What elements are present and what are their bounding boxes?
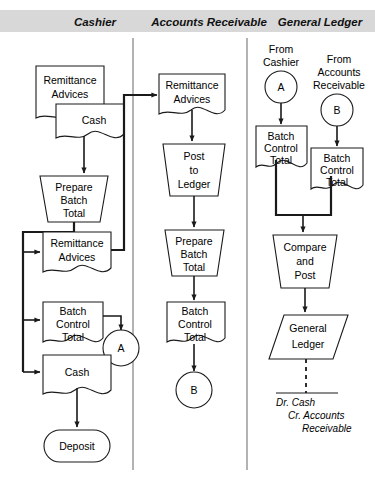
gl-compare-line3: Post — [294, 269, 315, 281]
ar-pbt-line3: Total — [183, 261, 205, 273]
gl-from-ar-line3: Receivable — [313, 79, 365, 91]
gl-general-ledger-line1: General — [289, 322, 326, 334]
gl-journal-entry-line2: Cr. Accounts — [288, 410, 345, 421]
gl-connector-a-label: A — [277, 81, 284, 93]
gl-bct-left-line2: Control — [264, 142, 298, 154]
gl-from-cashier-line1: From — [269, 43, 294, 55]
ar-post-line1: Post — [183, 150, 204, 162]
flowchart-page: Cashier Accounts Receivable General Ledg… — [0, 0, 375, 477]
cashier-pbt-line3: Total — [63, 207, 85, 219]
cashier-deposit-label: Deposit — [59, 440, 95, 452]
gl-journal-entry-line1: Dr. Cash — [276, 397, 316, 408]
cashier-ra2-line1: Remittance — [50, 237, 103, 249]
gl-compare-line1: Compare — [283, 241, 326, 253]
gl-from-ar-line1: From — [327, 53, 352, 65]
cashier-connector-a-label: A — [117, 342, 124, 354]
cashier-pbt-line1: Prepare — [55, 181, 93, 193]
gl-journal-entry-line3: Receivable — [302, 423, 352, 434]
gl-bct-right-line1: Batch — [324, 152, 351, 164]
cashier-ra2-line2: Advices — [59, 251, 96, 263]
gl-bct-left-line1: Batch — [268, 130, 295, 142]
cashier-bct-line2: Control — [56, 318, 90, 330]
ar-bct-line1: Batch — [182, 305, 209, 317]
ar-post-line3: Ledger — [178, 178, 211, 190]
ar-bct-line3: Total — [184, 331, 206, 343]
ar-ra-line1: Remittance — [165, 79, 218, 91]
gl-from-ar-line2: Accounts — [317, 66, 360, 78]
cashier-pbt-line2: Batch — [61, 194, 88, 206]
route-bct-to-connector-a — [103, 316, 121, 330]
ar-bct-line2: Control — [178, 318, 212, 330]
cashier-ra1-line1: Remittance — [43, 74, 96, 86]
cashier-cash-overlay-label: Cash — [82, 114, 107, 126]
gl-bct-right-line2: Control — [320, 164, 354, 176]
ar-ra-line2: Advices — [174, 93, 211, 105]
cashier-bct-line3: Total — [62, 331, 84, 343]
gl-compare-line2: and — [296, 255, 314, 267]
gl-from-cashier-line2: Cashier — [263, 56, 300, 68]
cashier-ra1-line2: Advices — [52, 88, 89, 100]
gl-general-ledger-line2: Ledger — [292, 338, 325, 350]
cashier-cash-document-label: Cash — [65, 366, 90, 378]
gl-connector-b-label: B — [333, 104, 340, 116]
ar-post-line2: to — [190, 164, 199, 176]
ar-pbt-line2: Batch — [181, 248, 208, 260]
gl-bct-right-line3: Total — [326, 176, 348, 188]
cashier-bct-line1: Batch — [60, 305, 87, 317]
ar-connector-b-label: B — [190, 384, 197, 396]
ar-pbt-line1: Prepare — [175, 235, 213, 247]
gl-bct-left-line3: Total — [270, 154, 292, 166]
